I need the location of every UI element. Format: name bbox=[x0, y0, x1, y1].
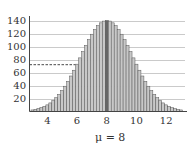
bar bbox=[168, 106, 171, 111]
bar bbox=[67, 81, 70, 111]
bar bbox=[84, 45, 87, 111]
bar bbox=[55, 98, 58, 112]
x-tick-label: 12 bbox=[160, 115, 173, 126]
bar bbox=[147, 86, 150, 111]
bar bbox=[153, 94, 156, 111]
bar bbox=[76, 64, 79, 111]
bar bbox=[159, 101, 162, 112]
x-tick-label: 4 bbox=[44, 115, 50, 126]
x-tick-label: 6 bbox=[74, 115, 80, 126]
bar bbox=[120, 34, 123, 111]
bar bbox=[162, 103, 165, 112]
bar bbox=[114, 26, 117, 112]
bar bbox=[123, 40, 126, 112]
bar bbox=[135, 64, 138, 111]
bar bbox=[93, 30, 96, 112]
bar bbox=[82, 52, 85, 112]
bar bbox=[117, 30, 120, 112]
bar bbox=[108, 21, 111, 111]
bar bbox=[132, 58, 135, 112]
bar bbox=[141, 76, 144, 111]
bar bbox=[144, 81, 147, 111]
bar bbox=[52, 101, 55, 112]
y-tick-label: 40 bbox=[13, 80, 26, 91]
bar bbox=[96, 26, 99, 112]
bar bbox=[43, 106, 46, 111]
bar bbox=[70, 76, 73, 111]
bar bbox=[165, 105, 168, 112]
bar bbox=[90, 34, 93, 111]
bar bbox=[126, 45, 129, 111]
histogram-chart: 20406080100120140 4681012 bbox=[0, 0, 191, 150]
bar bbox=[46, 105, 49, 112]
mean-label: μ = 8 bbox=[95, 131, 125, 144]
y-tick-labels: 20406080100120140 bbox=[7, 15, 26, 104]
bar bbox=[61, 91, 64, 112]
y-tick-label: 20 bbox=[13, 93, 26, 104]
bar bbox=[58, 94, 61, 111]
x-tick-labels: 4681012 bbox=[44, 115, 172, 126]
y-tick-label: 100 bbox=[7, 41, 26, 52]
y-tick-label: 140 bbox=[7, 15, 26, 26]
bar bbox=[40, 108, 43, 112]
y-tick-label: 60 bbox=[13, 67, 26, 78]
bar bbox=[129, 52, 132, 112]
bar bbox=[73, 70, 76, 111]
bar bbox=[64, 86, 67, 111]
bar bbox=[111, 23, 114, 112]
x-tick-label: 8 bbox=[104, 115, 110, 126]
bar bbox=[87, 40, 90, 112]
bar bbox=[79, 58, 82, 112]
bar bbox=[150, 91, 153, 112]
mean-bar bbox=[105, 21, 108, 112]
x-tick-label: 10 bbox=[130, 115, 143, 126]
y-tick-label: 120 bbox=[7, 28, 26, 39]
y-tick-label: 80 bbox=[13, 54, 26, 65]
bar bbox=[102, 21, 105, 111]
bar bbox=[49, 103, 52, 112]
bar bbox=[138, 70, 141, 111]
bar bbox=[171, 108, 174, 112]
bar bbox=[99, 23, 102, 112]
bar bbox=[156, 98, 159, 112]
